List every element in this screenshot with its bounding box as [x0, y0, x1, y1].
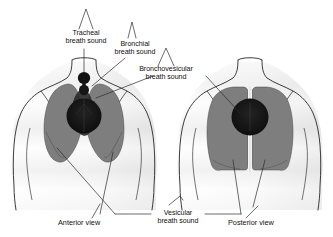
label-bronchial-line1: Bronchial [105, 40, 165, 48]
label-vesicular-line1: Vesicular [150, 209, 206, 217]
breath-sounds-illustration [0, 0, 333, 237]
label-bronchovesicular-line2: breath sound [130, 73, 202, 81]
label-bronchovesicular-line1: Bronchovesicular [130, 65, 202, 73]
label-tracheal-line1: Tracheal [56, 29, 116, 37]
label-bronchial-breath-sound: Bronchial breath sound [105, 40, 165, 56]
anterior-trachea-stem [82, 81, 85, 89]
label-vesicular-line2: breath sound [150, 217, 206, 225]
label-bronchovesicular-breath-sound: Bronchovesicular breath sound [130, 65, 202, 81]
label-bronchial-line2: breath sound [105, 48, 165, 56]
label-vesicular-breath-sound: Vesicular breath sound [150, 209, 206, 225]
label-posterior-view: Posterior view [228, 218, 274, 227]
diagram-canvas [0, 0, 333, 237]
label-anterior-view: Anterior view [58, 218, 100, 227]
